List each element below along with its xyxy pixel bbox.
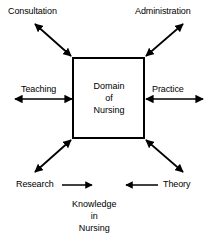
- arrow-research-diagonal: [35, 140, 71, 172]
- arrow-administration: [146, 24, 183, 56]
- node-label-administration: Administration: [135, 6, 191, 17]
- node-label-research: Research: [16, 179, 54, 190]
- node-label-practice: Practice: [152, 84, 184, 95]
- knowledge-line-3: Nursing: [72, 222, 117, 234]
- arrow-theory-diagonal: [146, 140, 183, 172]
- node-label-consultation: Consultation: [8, 6, 57, 17]
- arrow-consultation: [35, 24, 71, 56]
- domain-box-line-1: Domain: [79, 80, 139, 92]
- node-label-theory: Theory: [163, 179, 190, 190]
- knowledge-line-1: Knowledge: [72, 198, 117, 210]
- domain-box-label: Domain of Nursing: [79, 80, 139, 116]
- knowledge-node-label: Knowledge in Nursing: [72, 198, 117, 234]
- knowledge-line-2: in: [72, 210, 117, 222]
- domain-box-line-3: Nursing: [79, 104, 139, 116]
- node-label-teaching: Teaching: [21, 84, 56, 95]
- domain-box-line-2: of: [79, 92, 139, 104]
- nursing-domain-diagram: Consultation Administration Teaching Pra…: [0, 0, 218, 246]
